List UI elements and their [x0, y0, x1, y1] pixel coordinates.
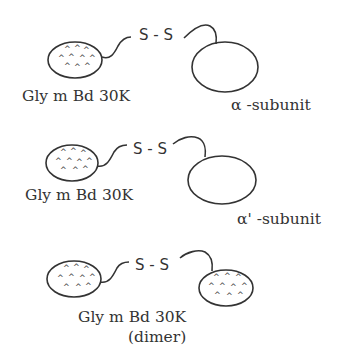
svg-text:^: ^: [70, 147, 77, 156]
svg-text:^: ^: [208, 282, 215, 291]
svg-text:^: ^: [60, 148, 67, 157]
alpha-subunit-label: α -subunit: [231, 96, 311, 114]
svg-text:^: ^: [68, 53, 75, 62]
disulfide-bond-label: S - S: [135, 256, 169, 274]
row-alpha-prime: ^ ^ ^ ^ ^ ^ ^ ^ ^ ^ S - S Gly m Bd 30K α…: [25, 137, 322, 228]
svg-text:^: ^: [85, 282, 92, 291]
svg-text:^: ^: [89, 273, 96, 282]
linker-right: [173, 137, 205, 157]
svg-text:^: ^: [226, 292, 233, 301]
disulfide-bond-label: S - S: [133, 140, 167, 158]
gly-m-bd-30k-ellipse-icon: ^ ^ ^ ^ ^ ^ ^ ^ ^ ^: [47, 261, 101, 297]
svg-text:^: ^: [82, 165, 89, 174]
svg-text:^: ^: [237, 291, 244, 300]
gly-m-bd-30k-label: Gly m Bd 30K: [78, 308, 187, 326]
alpha-prime-subunit-label: α' -subunit: [237, 210, 322, 228]
gly-m-bd-30k-label: Gly m Bd 30K: [25, 186, 134, 204]
svg-text:^: ^: [224, 272, 231, 281]
linker-right: [180, 251, 212, 271]
svg-text:^: ^: [213, 273, 220, 282]
alpha-subunit-ellipse-icon: [192, 42, 258, 92]
linker-left: [97, 145, 127, 166]
svg-text:^: ^: [219, 282, 226, 291]
svg-text:^: ^: [72, 166, 79, 175]
dimer-label: (dimer): [128, 328, 186, 346]
svg-text:^: ^: [230, 283, 237, 292]
svg-text:^: ^: [84, 62, 91, 71]
gly-m-bd-30k-dimer-ellipse-icon: ^ ^ ^ ^ ^ ^ ^ ^ ^ ^: [199, 270, 253, 306]
svg-text:^: ^: [64, 62, 71, 71]
linker-left: [100, 262, 129, 282]
svg-text:^: ^: [74, 44, 81, 53]
row-dimer: ^ ^ ^ ^ ^ ^ ^ ^ ^ ^ S - S ^ ^ ^ ^ ^: [47, 251, 253, 346]
svg-text:^: ^: [241, 282, 248, 291]
svg-text:^: ^: [63, 283, 70, 292]
svg-text:^: ^: [74, 63, 81, 72]
svg-text:^: ^: [75, 283, 82, 292]
svg-text:^: ^: [214, 291, 221, 300]
disulfide-bond-label: S - S: [139, 26, 173, 44]
svg-text:^: ^: [66, 157, 73, 166]
svg-text:^: ^: [57, 274, 64, 283]
gly-m-bd-30k-ellipse-icon: ^ ^ ^ ^ ^ ^ ^ ^ ^ ^: [46, 145, 98, 181]
gly-m-bd-30k-label: Gly m Bd 30K: [22, 87, 131, 105]
gly-m-bd-30k-ellipse-icon: ^ ^ ^ ^ ^ ^ ^ ^ ^ ^: [48, 42, 102, 78]
linker-left: [102, 37, 131, 58]
svg-text:^: ^: [55, 157, 62, 166]
linker-right: [184, 25, 216, 44]
disulfide-diagram: ^ ^ ^ ^ ^ ^ ^ ^ ^ ^ S - S Gly m Bd 30K α…: [0, 0, 344, 356]
svg-text:^: ^: [63, 264, 70, 273]
alpha-prime-subunit-ellipse-icon: [188, 156, 256, 204]
svg-text:^: ^: [60, 166, 67, 175]
svg-text:^: ^: [68, 273, 75, 282]
row-alpha: ^ ^ ^ ^ ^ ^ ^ ^ ^ ^ S - S Gly m Bd 30K α…: [22, 25, 311, 114]
svg-text:^: ^: [73, 263, 80, 272]
svg-text:^: ^: [235, 273, 242, 282]
